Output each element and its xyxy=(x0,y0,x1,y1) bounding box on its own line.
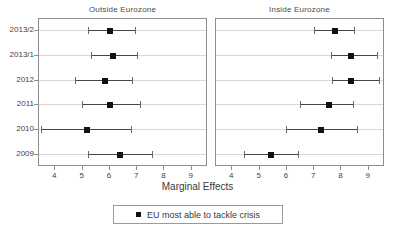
confidence-interval-line xyxy=(332,80,378,81)
gridline xyxy=(216,154,383,155)
confidence-interval-cap xyxy=(131,126,132,133)
legend-label: EU most able to tackle crisis xyxy=(147,210,260,220)
legend: EU most able to tackle crisis xyxy=(113,205,283,224)
y-axis-tick-label: 2009 xyxy=(0,149,34,159)
x-axis-tick xyxy=(136,166,137,170)
panel-frame-outside-eurozone xyxy=(38,18,207,166)
panel-title-inside-eurozone: Inside Eurozone xyxy=(215,5,384,14)
data-point-marker xyxy=(84,127,90,133)
x-axis-tick xyxy=(286,166,287,170)
y-axis-tick-label: 2010 xyxy=(0,124,34,134)
confidence-interval-cap xyxy=(75,77,76,84)
marginal-effects-figure: 2013/22013/12012201120102009Outside Euro… xyxy=(0,0,395,235)
x-axis-tick xyxy=(368,166,369,170)
data-point-marker xyxy=(107,102,113,108)
x-axis-tick-label: 7 xyxy=(126,171,146,180)
confidence-interval-cap xyxy=(91,52,92,59)
confidence-interval-cap xyxy=(137,52,138,59)
x-axis-tick-label: 9 xyxy=(181,171,201,180)
x-axis-tick xyxy=(313,166,314,170)
data-point-marker xyxy=(332,28,338,34)
confidence-interval-cap xyxy=(314,27,315,34)
data-point-marker xyxy=(107,28,113,34)
x-axis-tick xyxy=(82,166,83,170)
confidence-interval-cap xyxy=(82,101,83,108)
panel-frame-inside-eurozone xyxy=(215,18,384,166)
confidence-interval-cap xyxy=(41,126,42,133)
x-axis-tick-label: 4 xyxy=(221,171,241,180)
confidence-interval-cap xyxy=(132,77,133,84)
x-axis-tick-label: 9 xyxy=(358,171,378,180)
confidence-interval-cap xyxy=(88,27,89,34)
panel-title-outside-eurozone: Outside Eurozone xyxy=(38,5,207,14)
x-axis-tick-label: 5 xyxy=(249,171,269,180)
confidence-interval-cap xyxy=(357,126,358,133)
data-point-marker xyxy=(326,102,332,108)
confidence-interval-cap xyxy=(379,77,380,84)
y-axis-tick-label: 2013/2 xyxy=(0,25,34,35)
gridline xyxy=(216,30,383,31)
confidence-interval-cap xyxy=(135,27,136,34)
x-axis-tick-label: 8 xyxy=(330,171,350,180)
data-point-marker xyxy=(348,78,354,84)
confidence-interval-cap xyxy=(377,52,378,59)
confidence-interval-cap xyxy=(354,27,355,34)
confidence-interval-cap xyxy=(286,126,287,133)
data-point-marker xyxy=(117,152,123,158)
confidence-interval-cap xyxy=(152,151,153,158)
confidence-interval-cap xyxy=(353,101,354,108)
data-point-marker xyxy=(348,53,354,59)
confidence-interval-cap xyxy=(140,101,141,108)
confidence-interval-cap xyxy=(332,77,333,84)
y-axis-tick-label: 2011 xyxy=(0,99,34,109)
x-axis-tick-label: 5 xyxy=(72,171,92,180)
y-axis-tick-label: 2013/1 xyxy=(0,50,34,60)
x-axis-tick xyxy=(109,166,110,170)
x-axis-title: Marginal Effects xyxy=(0,181,395,192)
data-point-marker xyxy=(110,53,116,59)
confidence-interval-cap xyxy=(298,151,299,158)
confidence-interval-cap xyxy=(331,52,332,59)
data-point-marker xyxy=(102,78,108,84)
data-point-marker xyxy=(268,152,274,158)
legend-marker-icon xyxy=(136,212,141,217)
confidence-interval-cap xyxy=(300,101,301,108)
x-axis-tick xyxy=(54,166,55,170)
confidence-interval-cap xyxy=(244,151,245,158)
x-axis-tick xyxy=(231,166,232,170)
data-point-marker xyxy=(318,127,324,133)
x-axis-tick-label: 6 xyxy=(99,171,119,180)
confidence-interval-cap xyxy=(88,151,89,158)
y-axis-tick-label: 2012 xyxy=(0,75,34,85)
x-axis-tick-label: 8 xyxy=(153,171,173,180)
x-axis-tick-label: 6 xyxy=(276,171,296,180)
x-axis-tick-label: 7 xyxy=(303,171,323,180)
x-axis-tick xyxy=(191,166,192,170)
x-axis-tick xyxy=(163,166,164,170)
x-axis-tick xyxy=(259,166,260,170)
x-axis-tick xyxy=(340,166,341,170)
x-axis-tick-label: 4 xyxy=(44,171,64,180)
